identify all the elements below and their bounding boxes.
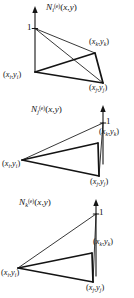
panel-i-drawing <box>0 0 134 98</box>
vertex-label-k: (xk,yk) <box>99 128 119 137</box>
panel-k-drawing <box>0 196 134 298</box>
surface-edge-apex-k <box>35 29 95 54</box>
edge-k-j <box>98 143 99 176</box>
edge-i-j <box>35 72 103 83</box>
panel-shape-function-i: Ni(e)(x,y) 1 (xi,yi) (xk,yk) (xj,yj) <box>0 0 134 98</box>
vertex-label-k: (xk,yk) <box>89 38 109 47</box>
unit-value-label-i: 1 <box>27 23 32 32</box>
unit-value-label-k: 1 <box>99 208 104 217</box>
edge-i-k <box>22 143 98 160</box>
vertex-label-k: (xk,yk) <box>93 238 113 247</box>
unit-value-label-j: 1 <box>106 117 111 126</box>
surface-edge-i-apex <box>22 123 103 160</box>
panel-shape-function-j: Nj(e)(x,y) 1 (xi,yi) (xk,yk) (xj,yj) <box>0 98 134 196</box>
shape-function-figure: Ni(e)(x,y) 1 (xi,yi) (xk,yk) (xj,yj) Nj( <box>0 0 134 298</box>
axis-arrowhead <box>100 105 105 112</box>
edge-i-j <box>22 160 99 176</box>
vertex-label-j: (xj,yj) <box>86 284 104 293</box>
panel-j-drawing <box>0 98 134 196</box>
vertex-label-i: (xi,yi) <box>3 71 21 80</box>
function-label-i: Ni(e)(x,y) <box>46 3 77 13</box>
vertex-label-j: (xj,yj) <box>90 178 108 187</box>
edge-k-j <box>95 53 103 83</box>
panel-shape-function-k: Nk(e)(x,y) 1 (xi,yi) (xk,yk) (xj,yj) <box>0 196 134 298</box>
vertex-label-j: (xj,yj) <box>89 84 107 93</box>
function-label-j: Nj(e)(x,y) <box>31 105 62 115</box>
axis-arrowhead <box>32 6 37 13</box>
axis-arrowhead <box>93 199 98 206</box>
vertex-label-i: (xi,yi) <box>2 160 20 169</box>
edge-i-j <box>18 268 93 282</box>
vertex-label-i: (xi,yi) <box>1 269 19 278</box>
function-label-k: Nk(e)(x,y) <box>19 198 51 208</box>
